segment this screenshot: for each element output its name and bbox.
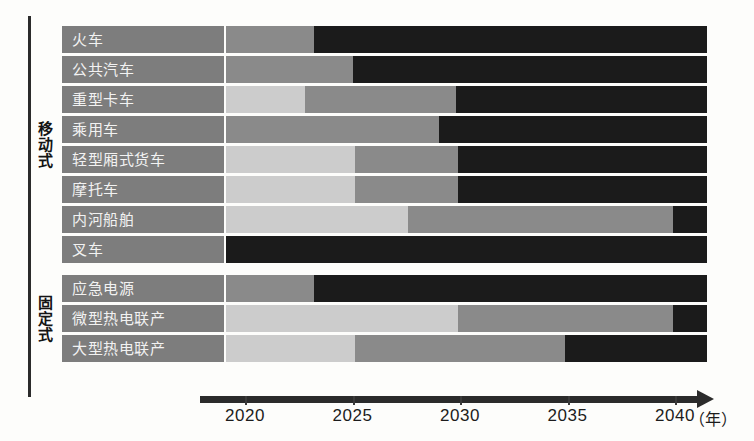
row-label: 叉车 [62,236,224,263]
bar-segment-mid [226,116,439,143]
chart-row: 火车 [62,26,754,53]
row-track [226,335,708,362]
bar-segment-dark [673,305,707,332]
chart-row: 乘用车 [62,116,754,143]
row-track [226,146,708,173]
bar-segment-light [226,305,458,332]
bar-segment-light [226,206,408,233]
bar-segment-light [226,176,355,203]
row-label: 乘用车 [62,116,224,143]
row-label: 内河船舶 [62,206,224,233]
chart-row: 公共汽车 [62,56,754,83]
x-axis-tick-label: 2035 [548,406,588,426]
bar-segment-light [226,335,355,362]
bar-segment-dark [458,176,707,203]
bar-segment-mid [355,335,566,362]
row-label: 公共汽车 [62,56,224,83]
x-axis-unit-label: （年） [689,406,737,430]
row-track [226,26,708,53]
y-axis-line [28,16,31,397]
x-axis-tick-label: 2030 [440,406,480,426]
group-label: 固定式 [34,275,56,362]
chart-row: 摩托车 [62,176,754,203]
row-track [226,56,708,83]
bar-segment-dark [565,335,707,362]
x-axis-tick [353,396,355,405]
timeline-chart: 移动式固定式 火车公共汽车重型卡车乘用车轻型厢式货车摩托车内河船舶叉车应急电源微… [0,0,754,441]
chart-row: 大型热电联产 [62,335,754,362]
x-axis-tick-label: 2025 [333,406,373,426]
x-axis-tick [460,396,462,405]
chart-row: 轻型厢式货车 [62,146,754,173]
row-track [226,176,708,203]
row-label: 火车 [62,26,224,53]
row-label: 重型卡车 [62,86,224,113]
row-label: 轻型厢式货车 [62,146,224,173]
chart-row: 重型卡车 [62,86,754,113]
x-axis-tick [245,396,247,405]
row-label: 摩托车 [62,176,224,203]
bar-segment-dark [314,275,707,302]
bar-segment-dark [314,26,707,53]
row-track [226,116,708,143]
row-label: 应急电源 [62,275,224,302]
row-track [226,275,708,302]
bar-segment-mid [355,146,458,173]
row-track [226,305,708,332]
bar-segment-dark [353,56,708,83]
bar-segment-mid [458,305,673,332]
group-label: 移动式 [34,26,56,263]
bar-segment-dark [226,236,707,263]
bar-segment-mid [408,206,672,233]
row-label: 微型热电联产 [62,305,224,332]
row-track [226,206,708,233]
bar-segment-dark [673,206,707,233]
row-track [226,236,708,263]
bar-segment-dark [456,86,707,113]
row-label: 大型热电联产 [62,335,224,362]
bar-segment-mid [355,176,458,203]
chart-row: 内河船舶 [62,206,754,233]
x-axis-tick [568,396,570,405]
bar-segment-mid [226,275,314,302]
chart-row: 叉车 [62,236,754,263]
x-axis-tick-label: 2020 [225,406,265,426]
chart-row: 应急电源 [62,275,754,302]
x-axis-tick [675,396,677,405]
bar-segment-mid [226,26,314,53]
chart-row: 微型热电联产 [62,305,754,332]
row-track [226,86,708,113]
bar-segment-light [226,86,305,113]
bar-segment-dark [439,116,708,143]
bar-segment-mid [305,86,456,113]
x-axis-line [200,396,700,403]
bar-segment-dark [458,146,707,173]
bar-segment-mid [226,56,353,83]
bar-segment-light [226,146,355,173]
